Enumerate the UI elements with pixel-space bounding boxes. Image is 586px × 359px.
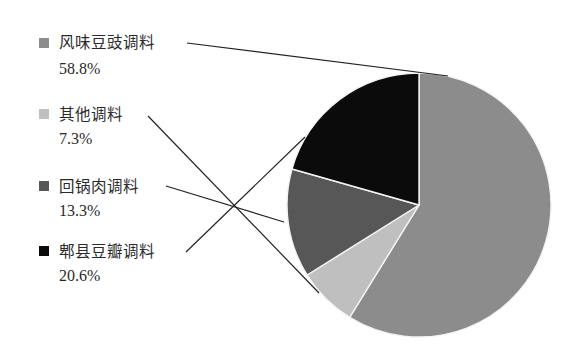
- legend-label: 其他调料: [59, 106, 123, 124]
- legend-label: 回锅肉调料: [59, 178, 139, 196]
- leader-line: [166, 186, 284, 222]
- legend-item: 郫县豆瓣调料 20.6%: [39, 243, 155, 284]
- legend-swatch: [39, 246, 49, 256]
- legend-label: 风味豆豉调料: [59, 34, 155, 52]
- legend-value: 13.3%: [59, 202, 100, 219]
- legend-item: 其他调料 7.3%: [39, 106, 123, 147]
- legend-item: 回锅肉调料 13.3%: [39, 178, 139, 219]
- legend-value: 20.6%: [59, 267, 100, 284]
- pie-slices: [287, 73, 551, 337]
- legend-swatch: [39, 181, 49, 191]
- legend-value: 58.8%: [59, 60, 100, 77]
- legend-label: 郫县豆瓣调料: [59, 243, 155, 261]
- legend-swatch: [39, 109, 49, 119]
- legend-swatch: [39, 38, 49, 48]
- legend-item: 风味豆豉调料 58.8%: [39, 34, 155, 77]
- legend-value: 7.3%: [59, 130, 92, 147]
- pie-chart: 风味豆豉调料 58.8% 其他调料 7.3% 回锅肉调料 13.3% 郫县豆瓣调…: [0, 0, 586, 359]
- leader-line: [187, 43, 448, 76]
- legend: 风味豆豉调料 58.8% 其他调料 7.3% 回锅肉调料 13.3% 郫县豆瓣调…: [39, 34, 155, 284]
